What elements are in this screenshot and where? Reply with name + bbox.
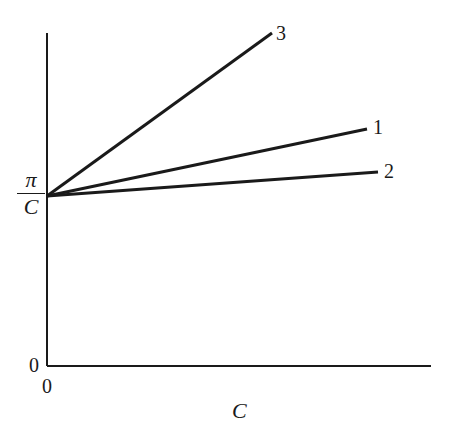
y-intercept-numerator: π <box>16 169 46 191</box>
y-intercept-denominator: C <box>16 196 46 218</box>
chart-canvas <box>0 0 454 446</box>
series-label-3: 3 <box>276 23 286 43</box>
x-axis-title: C <box>232 400 247 422</box>
series-label-1: 1 <box>373 117 383 137</box>
y-intercept-label: π C <box>16 169 46 218</box>
x-origin-label: 0 <box>42 376 52 396</box>
y-origin-label: 0 <box>29 355 39 375</box>
series-label-2: 2 <box>384 161 394 181</box>
series-line-2 <box>47 172 378 196</box>
